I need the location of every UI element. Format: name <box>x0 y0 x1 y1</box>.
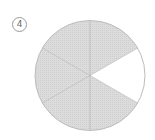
fraction-circle-diagram <box>0 0 155 140</box>
